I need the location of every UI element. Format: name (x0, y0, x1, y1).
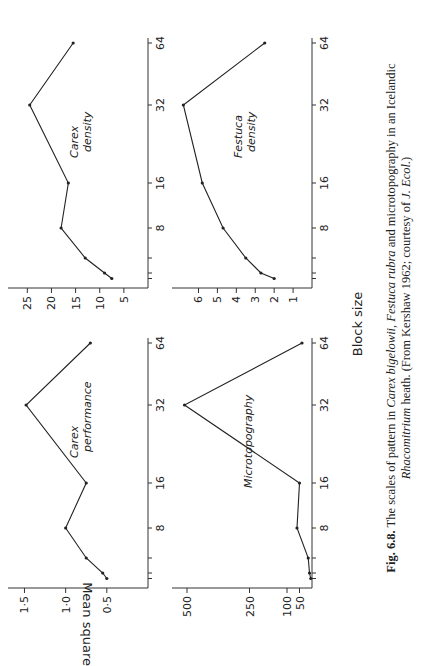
series-label: performance (81, 381, 94, 453)
x-tick-label: 64 (318, 336, 331, 350)
x-tick-label: 32 (154, 398, 167, 412)
data-point (103, 271, 106, 274)
panel-carex-performance: 81632640·51·01·5Carexperformance (8, 336, 167, 614)
series-label: Festuca (232, 115, 245, 158)
data-point (309, 577, 312, 580)
x-tick-label: 8 (318, 225, 331, 232)
series-label: density (245, 111, 258, 152)
data-point (221, 226, 224, 229)
x-tick-label: 8 (318, 525, 331, 532)
series-label: density (81, 111, 94, 152)
series-label: Carex (68, 425, 81, 458)
data-point (60, 226, 63, 229)
data-point (263, 41, 266, 44)
caption-text: The scales of pattern in (384, 411, 398, 528)
data-point (28, 103, 31, 106)
data-point (295, 526, 298, 529)
x-tick-label: 16 (318, 476, 331, 490)
caption-label: Fig. 6.8. (384, 530, 398, 572)
series-label: Carex (68, 125, 81, 158)
caption-species: Festuca rubra (384, 250, 398, 321)
panel-carex-density: 8163264510152025Carexdensity (8, 36, 167, 310)
y-tick-label: 20 (45, 296, 58, 310)
y-tick-label: 10 (94, 296, 107, 310)
data-line (26, 343, 107, 579)
y-tick-label: 1·0 (60, 596, 73, 614)
caption-text: and microtopography in an Icelandic (384, 63, 398, 247)
data-point (110, 277, 113, 280)
panel-microtopography: 816326450100250500Microtopography (172, 336, 331, 617)
data-point (308, 571, 311, 574)
data-point (101, 571, 104, 574)
plots: 81632640·51·01·5Carexperformance 8163264… (0, 0, 340, 648)
x-tick-label: 64 (154, 36, 167, 50)
data-point (89, 341, 92, 344)
y-tick-label: 5 (118, 296, 131, 303)
y-tick-label: 500 (181, 596, 194, 617)
caption-journal: J. Ecol. (399, 161, 413, 199)
y-tick-label: 50 (294, 596, 307, 610)
y-tick-label: 15 (70, 296, 83, 310)
data-point (298, 481, 301, 484)
data-point (25, 403, 28, 406)
data-line (30, 43, 112, 279)
data-point (72, 41, 75, 44)
y-tick-label: 0·5 (101, 596, 114, 614)
y-tick-label: 100 (281, 596, 294, 617)
caption-text: heath. (From Kershaw 1962; courtesy of (399, 202, 413, 405)
x-tick-label: 16 (154, 476, 167, 490)
x-tick-label: 16 (318, 176, 331, 190)
x-tick-label: 8 (154, 525, 167, 532)
y-tick-label: 6 (192, 296, 205, 303)
data-point (273, 277, 276, 280)
data-point (307, 556, 310, 559)
y-tick-label: 4 (230, 296, 243, 303)
y-tick-label: 250 (244, 596, 257, 617)
data-point (85, 481, 88, 484)
data-point (67, 181, 70, 184)
data-point (182, 103, 185, 106)
y-tick-label: 2 (268, 296, 281, 303)
x-tick-label: 32 (154, 98, 167, 112)
x-tick-label: 16 (154, 176, 167, 190)
data-point (183, 403, 186, 406)
figure-caption: Fig. 6.8. The scales of pattern in Carex… (384, 58, 414, 578)
data-point (105, 577, 108, 580)
y-tick-label: 1·5 (18, 596, 31, 614)
x-tick-label: 64 (318, 36, 331, 50)
series-label: Microtopography (242, 394, 255, 488)
x-tick-label: 64 (154, 336, 167, 350)
x-tick-label: 32 (318, 98, 331, 112)
data-point (64, 526, 67, 529)
y-tick-label: 25 (21, 296, 34, 310)
data-point (300, 341, 303, 344)
x-tick-label: 32 (318, 398, 331, 412)
y-tick-label: 1 (287, 296, 300, 303)
caption-species: Rhacomitrium (399, 408, 413, 480)
x-axis-label: Block size (350, 0, 365, 648)
y-tick-label: 3 (249, 296, 262, 303)
data-point (259, 271, 262, 274)
data-point (244, 256, 247, 259)
data-point (85, 556, 88, 559)
data-point (84, 256, 87, 259)
data-line (183, 43, 274, 279)
y-tick-label: 5 (211, 296, 224, 303)
caption-species: Carex bigelowii, (384, 325, 398, 408)
x-tick-label: 8 (154, 225, 167, 232)
data-point (201, 181, 204, 184)
panel-festuca-density: 8163264123456Festucadensity (172, 36, 331, 303)
